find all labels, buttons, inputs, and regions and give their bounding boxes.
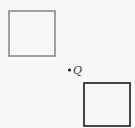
gray-square [9, 11, 55, 56]
point-q-dot [68, 68, 71, 71]
diagram-canvas: Q [0, 0, 135, 128]
point-q-label: Q [73, 64, 82, 77]
black-square [84, 83, 130, 126]
